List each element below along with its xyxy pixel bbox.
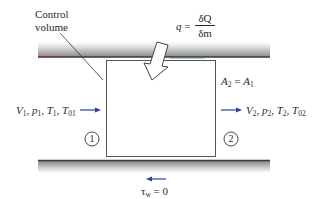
inlet-flow-arrow-icon — [80, 108, 101, 113]
wall-shear-arrow-icon — [146, 177, 166, 182]
inlet-state-label: V1, p1, T1, T01 — [16, 104, 76, 116]
bottom-duct-wall — [38, 160, 270, 173]
control-volume-box — [107, 61, 216, 157]
station-2-label: 2 — [227, 133, 235, 145]
station-1-label: 1 — [88, 133, 96, 145]
control-volume-label: Control volume — [35, 8, 69, 34]
area-relation-label: A2 = A1 — [221, 75, 254, 87]
heat-transfer-equation: q = — [176, 20, 190, 32]
control-volume-diagram: Control volume q = δQ δm A2 = A1 V1, p1,… — [0, 0, 325, 199]
outlet-flow-arrow-icon — [221, 108, 242, 113]
heat-transfer-fraction: δQ δm — [195, 12, 215, 39]
wall-shear-label: τw = 0 — [141, 185, 168, 197]
outlet-state-label: V2, p2, T2, T02 — [246, 104, 306, 116]
